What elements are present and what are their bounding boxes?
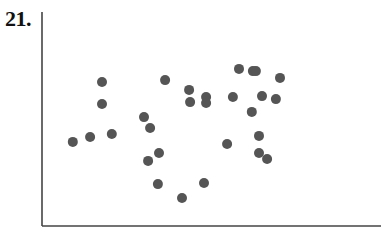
data-point [251,66,261,76]
data-point [107,129,117,139]
data-point [222,139,232,149]
data-point [160,75,170,85]
data-point [247,107,257,117]
data-points [68,64,285,203]
data-point [271,94,281,104]
data-point [153,179,163,189]
data-point [97,77,107,87]
scatter-plot [0,0,381,234]
data-point [177,193,187,203]
data-point [185,97,195,107]
data-point [275,73,285,83]
data-point [228,92,238,102]
data-point [257,91,267,101]
data-point [184,85,194,95]
data-point [199,178,209,188]
data-point [139,112,149,122]
data-point [68,137,78,147]
data-point [145,123,155,133]
data-point [143,156,153,166]
data-point [97,99,107,109]
data-point [262,154,272,164]
data-point [85,132,95,142]
data-point [234,64,244,74]
data-point [254,131,264,141]
data-point [201,98,211,108]
data-point [254,148,264,158]
data-point [154,148,164,158]
